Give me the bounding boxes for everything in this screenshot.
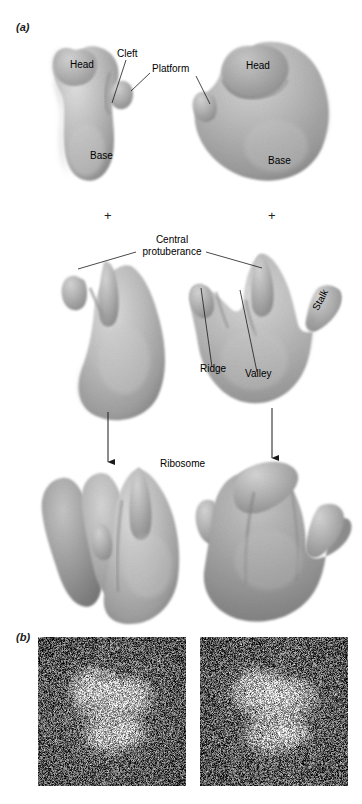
leader-platform-right [196,76,210,104]
label-head-left: Head [70,59,94,70]
ribosome-view-right [196,462,352,622]
label-base-left: Base [90,150,113,161]
label-head-right: Head [246,60,270,71]
large-subunit-view-left [62,262,165,421]
label-ribosome: Ribosome [160,458,205,469]
label-ridge: Ridge [200,363,226,374]
plus-operator-right: + [268,209,276,222]
label-cleft: Cleft [117,48,138,59]
label-platform: Platform [152,63,189,74]
label-central-protuberance-line2: protuberance [136,246,208,257]
panel-letter-a: (a) [16,21,29,33]
leader-ridge [201,288,212,367]
leader-cp-left [78,252,136,269]
leader-platform-left [131,73,150,91]
label-base-right: Base [268,155,291,166]
ribosome-view-left [42,468,180,624]
plus-operator-left: + [104,209,112,222]
leader-cleft [112,60,126,103]
label-valley: Valley [245,368,272,379]
micrograph-right [200,637,348,786]
panel-letter-b: (b) [16,631,30,643]
label-central-protuberance-line1: Central [141,234,203,245]
label-stalk: Stalk [310,287,330,312]
leader-cp-right [206,252,262,268]
leader-valley [240,290,257,372]
micrograph-left [38,637,186,786]
ribosome-figure: (a) Head Cleft Platform Base Head Base +… [0,0,362,804]
large-subunit-view-right [189,254,341,404]
